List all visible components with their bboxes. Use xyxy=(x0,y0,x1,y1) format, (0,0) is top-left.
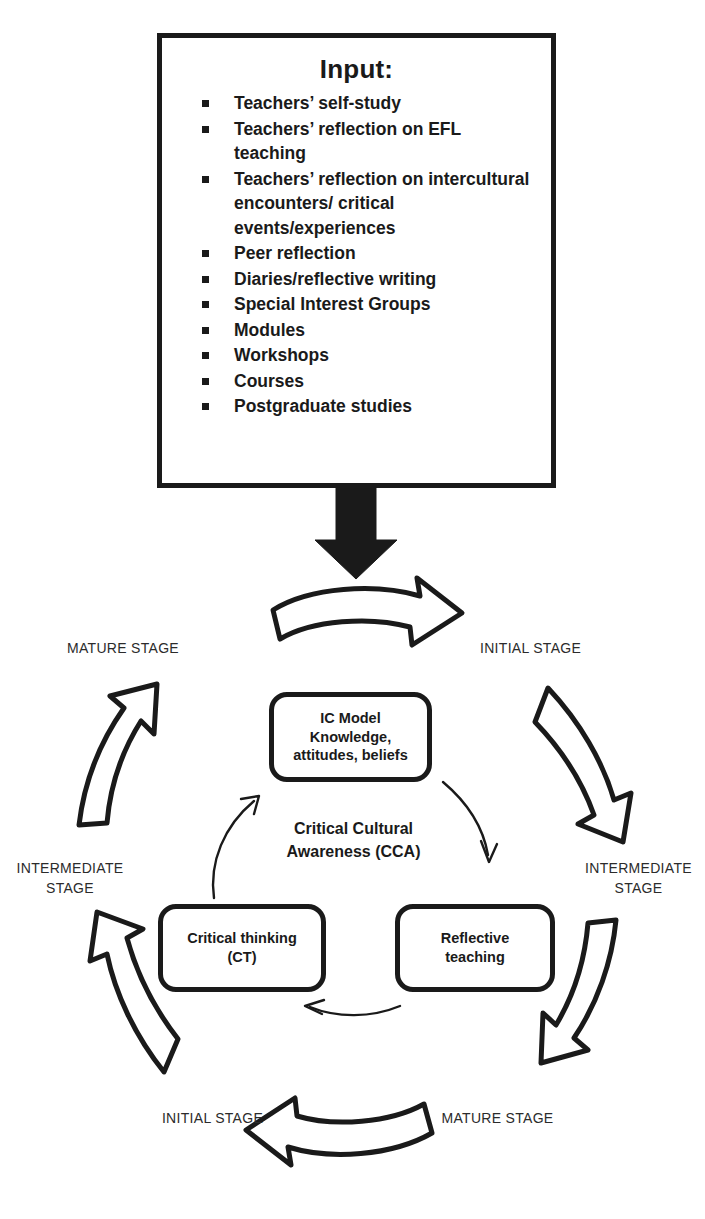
critical-cultural-awareness-label: Critical Cultural Awareness (CCA) xyxy=(226,818,481,863)
node-critical-thinking: Critical thinking (CT) xyxy=(158,904,326,992)
stage-label-initial-top: INITIAL STAGE xyxy=(480,638,670,658)
input-list-item: Peer reflection xyxy=(196,241,537,266)
input-list-item: Postgraduate studies xyxy=(196,394,537,419)
input-list-item: Workshops xyxy=(196,343,537,368)
hollow-curved-up-right-arrow-icon xyxy=(79,684,157,825)
input-box-title: Input: xyxy=(162,54,551,85)
stage-label-intermediate-left: INTERMEDIATE STAGE xyxy=(0,858,140,899)
node-ic-model: IC Model Knowledge, attitudes, beliefs xyxy=(269,692,432,782)
input-list-item: Modules xyxy=(196,318,537,343)
diagram-canvas: Input: Teachers’ self-study Teachers’ re… xyxy=(0,0,705,1219)
input-list-item: Teachers’ reflection on intercultural en… xyxy=(196,167,537,241)
node-reflective-teaching: Reflective teaching xyxy=(395,904,555,992)
thin-curved-arrow-icon xyxy=(305,1000,400,1015)
stage-label-initial-bottom: INITIAL STAGE xyxy=(130,1108,295,1128)
hollow-curved-right-arrow-icon xyxy=(273,578,462,645)
hollow-curved-down-right-arrow-icon xyxy=(535,688,631,842)
input-item-list: Teachers’ self-study Teachers’ reflectio… xyxy=(162,91,551,419)
input-list-item: Diaries/reflective writing xyxy=(196,267,537,292)
stage-label-intermediate-right: INTERMEDIATE STAGE xyxy=(572,858,705,899)
stage-label-mature-bottom: MATURE STAGE xyxy=(415,1108,580,1128)
stage-label-mature-top: MATURE STAGE xyxy=(28,638,218,658)
input-list-item: Courses xyxy=(196,369,537,394)
input-box: Input: Teachers’ self-study Teachers’ re… xyxy=(157,33,556,488)
solid-down-arrow-icon xyxy=(315,486,397,579)
input-list-item: Teachers’ self-study xyxy=(196,91,537,116)
input-list-item: Teachers’ reflection on EFL teaching xyxy=(196,117,537,166)
input-list-item: Special Interest Groups xyxy=(196,292,537,317)
